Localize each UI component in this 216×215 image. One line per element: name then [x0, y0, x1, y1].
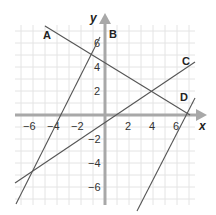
x-axis-label: x: [198, 119, 207, 133]
y-axis-label: y: [89, 11, 98, 25]
coordinate-plane: x y −6 −4 −2 2 4 6 6 4 2 −2 −4 −6 A B C …: [0, 0, 216, 215]
y-tick-label: −6: [88, 181, 101, 193]
x-tick-label: 2: [125, 120, 131, 132]
line-d-label: D: [180, 91, 188, 103]
y-tick-label: −4: [88, 157, 101, 169]
line-b-label: B: [109, 28, 117, 40]
y-tick-label: 4: [94, 61, 100, 73]
y-tick-label: −2: [88, 133, 101, 145]
y-axis: [99, 13, 111, 205]
x-tick-label: −6: [23, 120, 36, 132]
x-tick-label: 4: [149, 120, 155, 132]
y-tick-label: 2: [94, 85, 100, 97]
line-c-label: C: [182, 55, 190, 67]
line-a-label: A: [43, 29, 51, 41]
x-tick-label: −2: [71, 120, 84, 132]
y-axis-arrow-icon: [99, 13, 111, 24]
